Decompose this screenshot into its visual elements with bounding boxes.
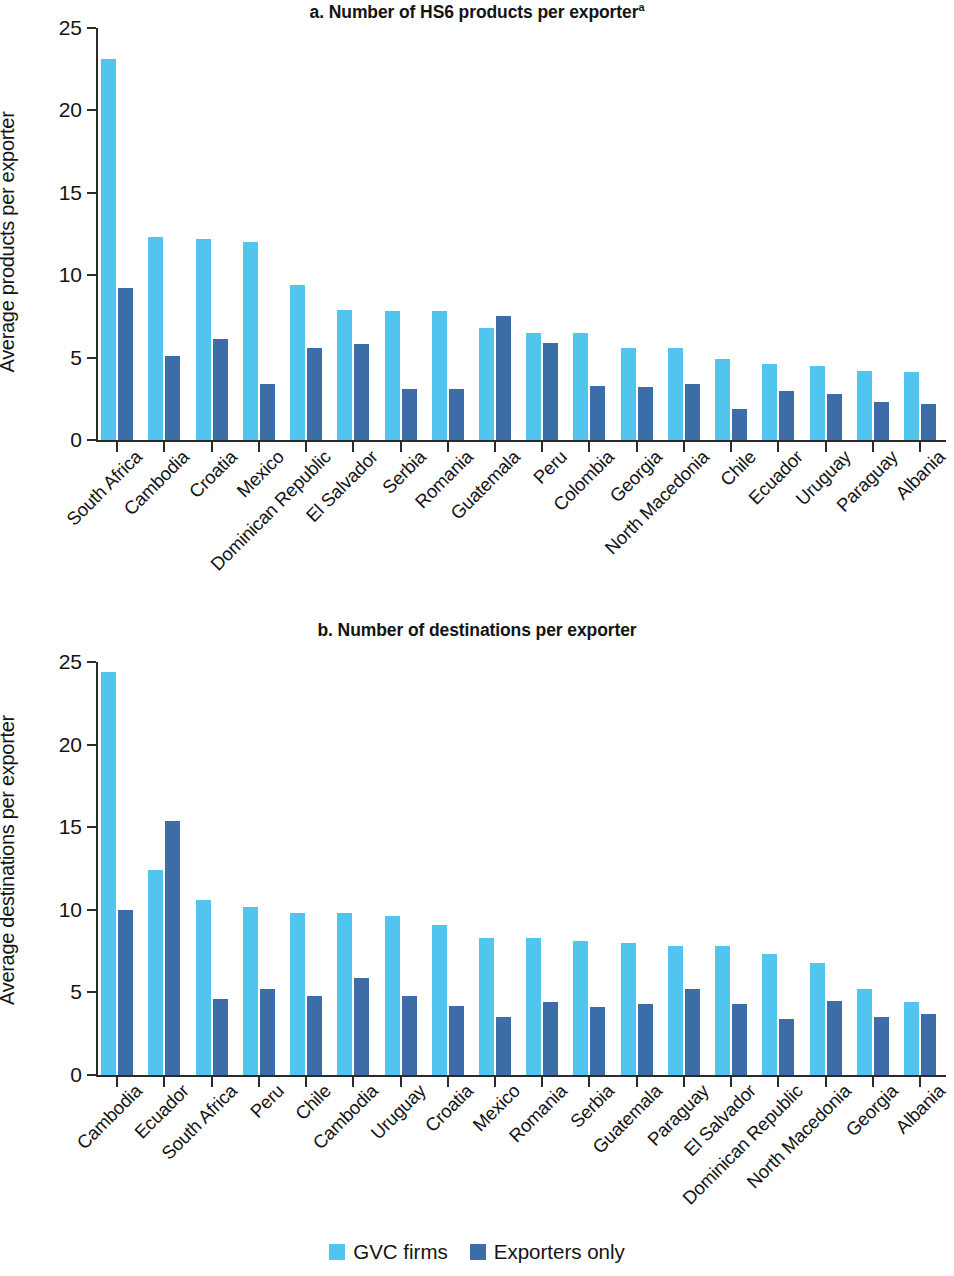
bar-gvc-firms bbox=[762, 954, 777, 1075]
panel-a-y-tick-label: 5 bbox=[70, 346, 82, 370]
bar-exporters-only bbox=[874, 1017, 889, 1075]
bar-gvc-firms bbox=[573, 941, 588, 1075]
panel-a-title-superscript: a bbox=[638, 1, 644, 13]
bar-group bbox=[101, 662, 133, 1075]
bar-gvc-firms bbox=[621, 348, 636, 440]
panel-b-y-tick-label: 5 bbox=[70, 980, 82, 1004]
bar-exporters-only bbox=[921, 404, 936, 440]
bar-exporters-only bbox=[543, 343, 558, 440]
bar-exporters-only bbox=[118, 910, 133, 1075]
bar-group bbox=[479, 28, 511, 440]
legend-swatch-exporters-only bbox=[470, 1244, 486, 1260]
bar-gvc-firms bbox=[904, 1002, 919, 1075]
legend-swatch-gvc-firms bbox=[329, 1244, 345, 1260]
bar-group bbox=[243, 28, 275, 440]
panel-a-y-tick-label: 0 bbox=[70, 428, 82, 452]
panel-a-x-tick-label: Albania bbox=[891, 446, 949, 504]
bar-gvc-firms bbox=[337, 913, 352, 1075]
bar-gvc-firms bbox=[148, 870, 163, 1075]
bar-exporters-only bbox=[402, 389, 417, 440]
panel-b-y-tick-label: 10 bbox=[59, 898, 82, 922]
bar-gvc-firms bbox=[526, 938, 541, 1075]
bar-exporters-only bbox=[118, 288, 133, 440]
bar-exporters-only bbox=[590, 386, 605, 440]
bar-group bbox=[715, 28, 747, 440]
panel-b-x-tick-label: Albania bbox=[891, 1080, 949, 1138]
bar-exporters-only bbox=[732, 409, 747, 440]
bar-exporters-only bbox=[638, 1004, 653, 1075]
bar-exporters-only bbox=[165, 821, 180, 1075]
panel-b-plot-area: 0510152025 bbox=[96, 662, 946, 1075]
panel-a-y-tick-label: 20 bbox=[59, 98, 82, 122]
bar-exporters-only bbox=[307, 996, 322, 1075]
bar-group bbox=[196, 662, 228, 1075]
bar-group bbox=[385, 662, 417, 1075]
legend-label-exporters-only: Exporters only bbox=[494, 1240, 625, 1264]
panel-a-y-tick-label: 15 bbox=[59, 181, 82, 205]
bar-gvc-firms bbox=[432, 311, 447, 440]
panel-b-y-axis-title: Average destinations per exporter bbox=[0, 640, 30, 1080]
panel-a-y-tick bbox=[87, 274, 96, 276]
bar-group bbox=[337, 28, 369, 440]
panel-a-y-axis-title: Average products per exporter bbox=[0, 22, 30, 462]
bar-exporters-only bbox=[449, 389, 464, 440]
bar-group bbox=[196, 28, 228, 440]
panel-b-x-tick-label: Cambodia bbox=[73, 1080, 147, 1154]
bar-gvc-firms bbox=[101, 672, 116, 1075]
bar-exporters-only bbox=[213, 999, 228, 1075]
panel-a-y-tick bbox=[87, 357, 96, 359]
panel-b-y-tick-label: 20 bbox=[59, 733, 82, 757]
panel-b-x-axis-line bbox=[96, 1075, 946, 1077]
bar-gvc-firms bbox=[479, 938, 494, 1075]
bar-gvc-firms bbox=[290, 285, 305, 440]
bar-gvc-firms bbox=[196, 900, 211, 1075]
panel-a-y-tick-label: 10 bbox=[59, 263, 82, 287]
bar-exporters-only bbox=[685, 384, 700, 440]
bar-group bbox=[762, 662, 794, 1075]
bar-gvc-firms bbox=[762, 364, 777, 440]
bar-group bbox=[715, 662, 747, 1075]
chart-panel-a: a. Number of HS6 products per exportera … bbox=[0, 0, 954, 610]
panel-b-x-tick-label: Croatia bbox=[421, 1080, 478, 1137]
bar-group bbox=[621, 662, 653, 1075]
bar-group bbox=[337, 662, 369, 1075]
bar-group bbox=[904, 28, 936, 440]
bar-exporters-only bbox=[921, 1014, 936, 1075]
bar-group bbox=[243, 662, 275, 1075]
panel-a-x-tick-labels: South AfricaCambodiaCroatiaMexicoDominic… bbox=[96, 446, 946, 596]
bar-group bbox=[101, 28, 133, 440]
panel-a-y-tick bbox=[87, 439, 96, 441]
bar-exporters-only bbox=[260, 384, 275, 440]
bar-exporters-only bbox=[685, 989, 700, 1075]
panel-b-y-tick-label: 15 bbox=[59, 815, 82, 839]
legend-item-gvc-firms: GVC firms bbox=[329, 1240, 448, 1264]
bar-exporters-only bbox=[307, 348, 322, 440]
bar-group bbox=[668, 662, 700, 1075]
bar-gvc-firms bbox=[148, 237, 163, 440]
bar-gvc-firms bbox=[810, 963, 825, 1075]
bar-exporters-only bbox=[590, 1007, 605, 1075]
bar-gvc-firms bbox=[243, 242, 258, 440]
bar-exporters-only bbox=[354, 344, 369, 440]
bar-gvc-firms bbox=[243, 907, 258, 1076]
bar-exporters-only bbox=[827, 394, 842, 440]
bar-group bbox=[857, 28, 889, 440]
bar-group bbox=[526, 662, 558, 1075]
bar-gvc-firms bbox=[857, 989, 872, 1075]
legend-label-gvc-firms: GVC firms bbox=[353, 1240, 448, 1264]
bar-gvc-firms bbox=[715, 359, 730, 440]
figure-root: a. Number of HS6 products per exportera … bbox=[0, 0, 954, 1276]
bar-exporters-only bbox=[874, 402, 889, 440]
bar-group bbox=[432, 662, 464, 1075]
bar-group bbox=[290, 28, 322, 440]
panel-a-y-tick bbox=[87, 192, 96, 194]
panel-b-y-tick bbox=[87, 826, 96, 828]
bar-exporters-only bbox=[165, 356, 180, 440]
bar-gvc-firms bbox=[385, 916, 400, 1075]
panel-a-x-tick-label: Croatia bbox=[184, 446, 241, 503]
bar-gvc-firms bbox=[385, 311, 400, 440]
bar-group bbox=[857, 662, 889, 1075]
panel-a-plot-area: 0510152025 bbox=[96, 28, 946, 440]
chart-panel-b: b. Number of destinations per exporter A… bbox=[0, 618, 954, 1228]
bar-exporters-only bbox=[213, 339, 228, 440]
